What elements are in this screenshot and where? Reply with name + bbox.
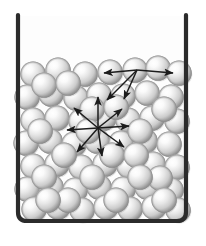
liquid-molecular-diagram [0,0,206,246]
diagram-canvas [0,0,206,246]
